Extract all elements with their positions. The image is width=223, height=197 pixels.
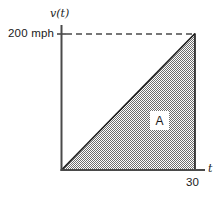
shaded-region-label: A bbox=[150, 111, 169, 130]
y-axis-name-label: v(t) bbox=[50, 8, 69, 19]
x-axis-name-label: t bbox=[208, 163, 212, 174]
velocity-time-figure: 200 mph v(t) t 30 A bbox=[0, 0, 223, 197]
y-axis-tick-label: 200 mph bbox=[8, 28, 54, 40]
x-axis-tick-label: 30 bbox=[186, 177, 199, 189]
